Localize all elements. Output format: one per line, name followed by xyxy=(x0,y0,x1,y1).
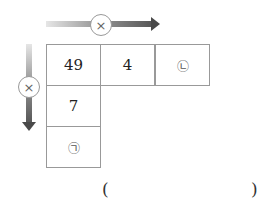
answer-close-paren: ) xyxy=(251,179,258,199)
cell-value: 49 xyxy=(64,56,83,74)
grid-cell-r2c1: 7 xyxy=(46,85,101,127)
cell-value: 7 xyxy=(69,97,79,115)
arrow-right-icon xyxy=(151,17,160,31)
multiply-icon: × xyxy=(18,76,40,98)
circled-nieun-label: ㉡ xyxy=(177,57,189,74)
circled-giyeok-label: ㉠ xyxy=(68,139,80,156)
grid-cell-r1c3: ㉡ xyxy=(155,44,210,86)
grid-cell-r1c2: 4 xyxy=(100,44,155,86)
multiply-icon: × xyxy=(90,14,112,36)
vertical-operator: × xyxy=(24,80,35,95)
horizontal-operator: × xyxy=(96,18,107,33)
answer-open-paren: ( xyxy=(102,179,109,199)
grid-cell-r3c1: ㉠ xyxy=(46,126,101,168)
cell-value: 4 xyxy=(123,56,133,74)
arrow-down-icon xyxy=(22,122,36,131)
grid-cell-r1c1: 49 xyxy=(46,44,101,86)
